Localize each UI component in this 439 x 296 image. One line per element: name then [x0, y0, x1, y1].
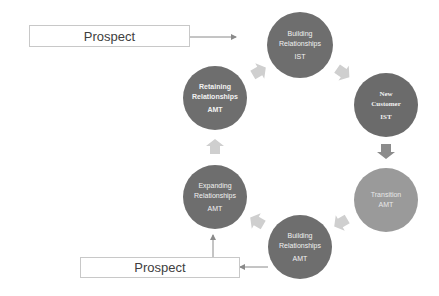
stage-line2: Relationships [192, 92, 238, 102]
stage-building-relationships-ist: Building Relationships IST [267, 12, 333, 78]
stage-owner: AMT [207, 105, 222, 115]
arrow-new-customer-to-transition-icon [377, 144, 395, 159]
arrow-expanding-to-retaining-icon [206, 139, 224, 154]
stage-line2: Relationships [279, 39, 321, 49]
stage-line2: Relationships [279, 241, 321, 251]
stage-line1: Expanding [198, 181, 231, 191]
stage-expanding-relationships-amt: Expanding Relationships AMT [183, 165, 247, 229]
prospect-box-top: Prospect [29, 25, 190, 47]
stage-transition-amt: Transition AMT [354, 168, 418, 232]
prospect-top-label: Prospect [84, 29, 135, 44]
arrow-retaining-to-building-ist-icon [248, 60, 270, 83]
prospect-box-bottom: Prospect [80, 257, 240, 278]
stage-line1: Building [288, 29, 313, 39]
stage-line2: Customer [371, 99, 401, 109]
prospect-bottom-label: Prospect [134, 260, 185, 275]
stage-owner: AMT [208, 204, 223, 214]
stage-line1: Transition [371, 190, 401, 200]
stage-line1: Building [288, 231, 313, 241]
stage-line2: Relationships [194, 191, 236, 201]
stage-line1: Retaining [199, 82, 231, 92]
stage-retaining-relationships-amt: Retaining Relationships AMT [183, 66, 247, 130]
stage-owner: AMT [293, 254, 308, 264]
arrow-building-ist-to-new-customer-icon [332, 61, 355, 84]
stage-new-customer-ist: New Customer IST [354, 73, 418, 137]
stage-building-relationships-amt: Building Relationships AMT [268, 215, 332, 279]
stage-owner: AMT [379, 200, 394, 210]
stage-owner: IST [380, 112, 391, 122]
stage-line1: New [379, 89, 392, 99]
stage-owner: IST [295, 52, 306, 62]
arrow-transition-to-building-amt-icon [330, 211, 352, 234]
arrow-building-amt-to-expanding-icon [246, 210, 268, 233]
